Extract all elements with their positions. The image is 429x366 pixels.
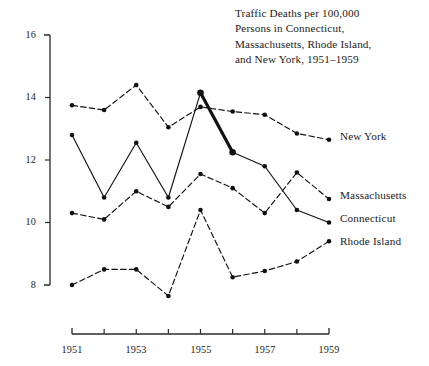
data-point bbox=[295, 170, 300, 175]
data-point bbox=[166, 205, 171, 210]
x-tick-label-1953: 1953 bbox=[116, 344, 156, 355]
x-tick-label-1955: 1955 bbox=[181, 344, 221, 355]
data-point bbox=[295, 131, 300, 136]
data-point bbox=[327, 137, 332, 142]
series-label-massachusetts: Massachusetts bbox=[340, 189, 407, 201]
data-point bbox=[230, 109, 235, 114]
chart-figure: Traffic Deaths per 100,000 Persons in Co… bbox=[0, 0, 429, 366]
chart-title: Traffic Deaths per 100,000 Persons in Co… bbox=[235, 6, 429, 68]
data-point bbox=[70, 103, 75, 108]
data-point bbox=[70, 133, 75, 138]
data-point bbox=[102, 108, 107, 113]
y-tick-label-16: 16 bbox=[14, 29, 36, 40]
series-line-rhode-island bbox=[72, 210, 329, 296]
x-tick-label-1951: 1951 bbox=[52, 344, 92, 355]
x-tick-label-1959: 1959 bbox=[309, 344, 349, 355]
series-line-massachusetts bbox=[72, 173, 329, 220]
chart-title-line-1: Traffic Deaths per 100,000 bbox=[235, 6, 429, 21]
series-label-connecticut: Connecticut bbox=[340, 212, 396, 224]
data-point bbox=[166, 125, 171, 130]
y-tick-label-8: 8 bbox=[14, 279, 36, 290]
data-point bbox=[134, 83, 139, 88]
data-point bbox=[102, 217, 107, 222]
data-point bbox=[262, 269, 267, 274]
data-point bbox=[327, 220, 332, 225]
data-point bbox=[102, 195, 107, 200]
chart-title-line-4: and New York, 1951–1959 bbox=[235, 52, 429, 67]
data-point bbox=[198, 105, 203, 110]
data-point bbox=[295, 208, 300, 213]
data-point bbox=[134, 267, 139, 272]
data-point bbox=[230, 275, 235, 280]
data-point bbox=[295, 259, 300, 264]
data-point bbox=[327, 239, 332, 244]
data-point bbox=[166, 294, 171, 299]
y-tick-label-12: 12 bbox=[14, 154, 36, 165]
data-point bbox=[197, 90, 204, 97]
chart-title-line-3: Massachusetts, Rhode Island, bbox=[235, 37, 429, 52]
data-point bbox=[262, 164, 267, 169]
data-point bbox=[230, 186, 235, 191]
data-point bbox=[134, 189, 139, 194]
x-tick-label-1957: 1957 bbox=[245, 344, 285, 355]
data-point bbox=[166, 195, 171, 200]
data-point bbox=[70, 211, 75, 216]
data-point bbox=[262, 112, 267, 117]
data-point bbox=[198, 208, 203, 213]
data-point bbox=[327, 197, 332, 202]
chart-title-line-2: Persons in Connecticut, bbox=[235, 21, 429, 36]
series-emphasis-segment-connecticut bbox=[201, 93, 233, 152]
series-line-connecticut bbox=[72, 93, 329, 223]
data-point bbox=[262, 211, 267, 216]
data-point bbox=[70, 283, 75, 288]
y-tick-label-14: 14 bbox=[14, 91, 36, 102]
data-point bbox=[102, 267, 107, 272]
data-point bbox=[134, 141, 139, 146]
data-point bbox=[198, 172, 203, 177]
series-label-rhode-island: Rhode Island bbox=[340, 235, 401, 247]
data-point bbox=[229, 149, 236, 156]
y-tick-label-10: 10 bbox=[14, 216, 36, 227]
series-label-new-york: New York bbox=[340, 130, 387, 142]
